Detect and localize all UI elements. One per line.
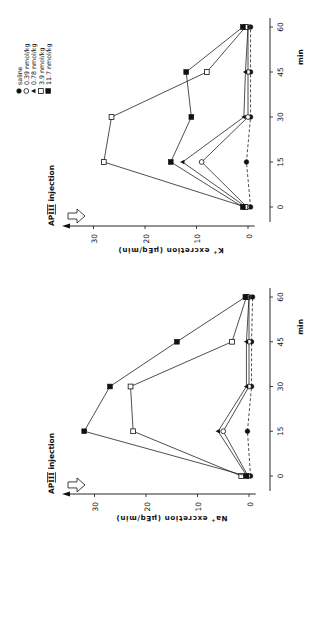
time-tick-label: 45: [276, 337, 285, 347]
filled-circle-marker: [245, 429, 250, 434]
injection-arrow-icon: [62, 223, 70, 228]
value-tick-label: 20: [142, 234, 151, 244]
series-11-7-nmol-kg: [168, 25, 245, 210]
legend-label: saline: [16, 66, 23, 85]
legend-label: 11.7 nmol/kg: [45, 43, 53, 85]
filled-square-marker: [243, 295, 248, 300]
value-tick-label: 0: [246, 502, 255, 507]
injection-label: APIII injection: [47, 165, 56, 226]
value-tick-label: 10: [194, 502, 203, 512]
series-line: [104, 27, 246, 207]
open-square-marker: [128, 384, 133, 389]
series-3-9-nmol-kg: [101, 25, 247, 210]
filled-square-marker: [240, 25, 245, 30]
time-tick-label: 45: [276, 67, 285, 77]
time-axis-label: min: [296, 319, 305, 335]
filled-triangle-marker: [180, 160, 184, 164]
injection-label: APIII injection: [47, 433, 56, 494]
value-axis-label: K+ excretion (µEq/min): [118, 246, 224, 256]
value-tick-label: 20: [143, 502, 152, 512]
open-square-marker: [101, 160, 106, 165]
time-tick-label: 15: [276, 157, 285, 167]
legend-item: 11.7 nmol/kg: [45, 43, 53, 93]
time-tick-label: 0: [276, 204, 285, 209]
open-circle-marker: [246, 115, 251, 120]
time-tick-label: 30: [276, 112, 285, 122]
series-0-78-nmol-kg: [216, 295, 251, 478]
filled-square-marker: [175, 339, 180, 344]
time-tick-label: 60: [276, 292, 285, 302]
open-circle-marker: [221, 429, 226, 434]
filled-square-marker: [189, 115, 194, 120]
legend-item: saline: [16, 66, 23, 93]
filled-triangle-marker: [31, 89, 35, 93]
series-11-7-nmol-kg: [82, 295, 249, 479]
filled-square-marker: [240, 205, 245, 210]
open-circle-marker: [24, 89, 29, 94]
filled-square-marker: [108, 384, 113, 389]
value-tick-label: 10: [193, 234, 202, 244]
filled-square-marker: [168, 160, 173, 165]
filled-square-marker: [184, 70, 189, 75]
legend: saline0.39 nmol/kg0.78 nmol/kg3.9 nmol/k…: [16, 43, 53, 93]
filled-square-marker: [82, 429, 87, 434]
time-tick-label: 60: [276, 22, 285, 32]
value-tick-label: 30: [91, 502, 100, 512]
series-line: [171, 27, 243, 207]
figure: 0102030K+ excretion (µEq/min)015304560mi…: [0, 0, 313, 625]
value-tick-label: 0: [245, 234, 254, 239]
filled-triangle-marker: [216, 429, 220, 433]
k-excretion-chart: 0102030K+ excretion (µEq/min)015304560mi…: [47, 18, 305, 256]
filled-circle-marker: [244, 160, 249, 165]
time-tick-label: 0: [276, 473, 285, 478]
time-axis-label: min: [296, 49, 305, 65]
open-square-marker: [204, 70, 209, 75]
filled-square-marker: [46, 89, 51, 94]
injection-block-arrow-icon: [68, 209, 85, 223]
open-square-marker: [230, 339, 235, 344]
value-axis-label: Na+ excretion (µEq/min): [116, 514, 228, 524]
open-square-marker: [131, 429, 136, 434]
filled-circle-marker: [17, 89, 22, 94]
injection-block-arrow-icon: [68, 478, 85, 492]
time-tick-label: 15: [276, 426, 285, 436]
open-circle-marker: [199, 160, 204, 165]
time-tick-label: 30: [276, 382, 285, 392]
na-excretion-chart: 0102030Na+ excretion (µEq/min)015304560m…: [47, 288, 305, 524]
open-square-marker: [39, 89, 44, 94]
open-square-marker: [109, 115, 114, 120]
filled-square-marker: [244, 474, 249, 479]
value-tick-label: 30: [90, 234, 99, 244]
injection-arrow-icon: [62, 491, 70, 496]
